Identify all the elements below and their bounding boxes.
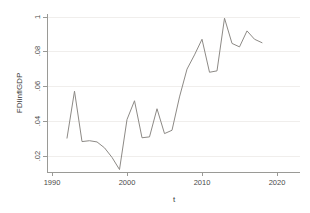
gridlines [47, 17, 300, 156]
x-axis [47, 172, 300, 176]
x-axis-title: t [173, 195, 176, 204]
y-tick-label: .06 [33, 81, 42, 91]
y-axis-title: FDIinflGDP [15, 73, 24, 113]
line-chart: 1 .08 .06 .04 .02 FDIinflGDP 1990 2000 2… [0, 0, 310, 213]
x-tick-label: 2020 [269, 178, 286, 187]
y-tick-label: .02 [33, 151, 42, 161]
chart-container: 1 .08 .06 .04 .02 FDIinflGDP 1990 2000 2… [0, 0, 310, 213]
x-tick-label: 1990 [44, 178, 61, 187]
data-series-line [67, 18, 262, 169]
y-tick-label: .04 [33, 116, 42, 126]
y-tick-labels: 1 .08 .06 .04 .02 [33, 15, 42, 161]
x-tick-label: 2000 [119, 178, 136, 187]
x-tick-labels: 1990 2000 2010 2020 [44, 178, 286, 187]
y-axis [43, 14, 47, 172]
y-tick-label: .08 [33, 46, 42, 56]
x-tick-label: 2010 [194, 178, 211, 187]
y-tick-label: 1 [33, 15, 42, 19]
